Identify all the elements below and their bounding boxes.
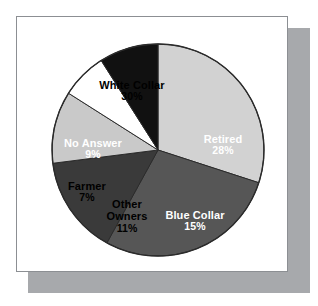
page-root: White Collar 30% Retired 28% Blue Collar… xyxy=(0,0,318,306)
pie-slice-group xyxy=(52,44,264,256)
pie-chart-svg xyxy=(0,0,318,306)
